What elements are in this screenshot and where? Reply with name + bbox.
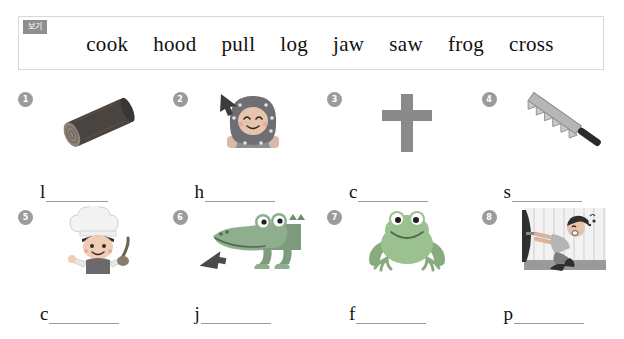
child-in-hood-icon xyxy=(197,88,309,156)
answer-first-letter: c xyxy=(349,181,357,202)
answer-line[interactable] xyxy=(201,306,271,324)
item-number-badge: 3 xyxy=(327,92,342,107)
question-item-2: 2 xyxy=(167,84,316,202)
answer-line[interactable] xyxy=(512,184,582,202)
question-row: 5 xyxy=(0,202,624,324)
answer-blank-3[interactable]: c xyxy=(349,181,428,202)
question-item-7: 7 xyxy=(321,202,470,324)
answer-first-letter: l xyxy=(40,181,45,202)
question-grid: 1 l xyxy=(0,84,624,324)
question-item-1: 1 l xyxy=(12,84,161,202)
word-bank-word[interactable]: pull xyxy=(221,31,255,57)
answer-line[interactable] xyxy=(358,184,428,202)
question-item-4: 4 s xyxy=(476,84,624,202)
answer-line[interactable] xyxy=(356,306,426,324)
item-number-badge: 1 xyxy=(18,92,33,107)
answer-first-letter: c xyxy=(40,303,48,324)
answer-first-letter: f xyxy=(349,303,355,324)
answer-blank-2[interactable]: h xyxy=(195,181,276,202)
word-bank-word[interactable]: frog xyxy=(448,31,484,57)
item-number-badge: 5 xyxy=(18,210,33,225)
word-bank-word[interactable]: cross xyxy=(509,31,554,57)
pointer-arrow-icon xyxy=(199,248,227,270)
word-bank-word[interactable]: jaw xyxy=(333,31,364,57)
pull-door-icon xyxy=(506,206,618,274)
cook-icon xyxy=(42,206,154,274)
crocodile-jaw-icon xyxy=(197,206,309,274)
item-number-badge: 8 xyxy=(482,210,497,225)
word-bank-word[interactable]: saw xyxy=(389,31,423,57)
log-icon xyxy=(42,88,154,156)
answer-blank-4[interactable]: s xyxy=(504,181,582,202)
question-item-6: 6 xyxy=(167,202,316,324)
item-number-badge: 4 xyxy=(482,92,497,107)
item-number-badge: 6 xyxy=(173,210,188,225)
item-number-badge: 7 xyxy=(327,210,342,225)
question-item-3: 3 c xyxy=(321,84,470,202)
answer-line[interactable] xyxy=(46,184,108,202)
word-bank-word[interactable]: log xyxy=(280,31,308,57)
answer-first-letter: j xyxy=(195,303,200,324)
answer-blank-6[interactable]: j xyxy=(195,303,271,324)
saw-icon xyxy=(506,88,618,156)
frog-icon xyxy=(351,206,463,274)
question-item-5: 5 xyxy=(12,202,161,324)
word-bank-word[interactable]: cook xyxy=(86,31,128,57)
answer-blank-7[interactable]: f xyxy=(349,303,426,324)
answer-first-letter: p xyxy=(504,303,514,324)
word-bank: 보기 cook hood pull log jaw saw frog cross xyxy=(18,16,604,70)
item-number-badge: 2 xyxy=(173,92,188,107)
answer-first-letter: h xyxy=(195,181,205,202)
cross-icon xyxy=(351,88,463,156)
answer-line[interactable] xyxy=(49,306,119,324)
answer-blank-8[interactable]: p xyxy=(504,303,585,324)
word-bank-word[interactable]: hood xyxy=(153,31,196,57)
answer-first-letter: s xyxy=(504,181,511,202)
answer-blank-1[interactable]: l xyxy=(40,181,108,202)
question-row: 1 l xyxy=(0,84,624,202)
answer-line[interactable] xyxy=(205,184,275,202)
answer-line[interactable] xyxy=(514,306,584,324)
question-item-8: 8 xyxy=(476,202,624,324)
answer-blank-5[interactable]: c xyxy=(40,303,119,324)
word-bank-word-list: cook hood pull log jaw saw frog cross xyxy=(19,31,603,57)
